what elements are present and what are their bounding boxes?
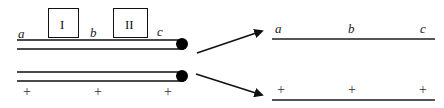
- left-plus-mark-2: +: [94, 85, 102, 99]
- bottom-rod-upper-line: [17, 71, 184, 73]
- left-plus-mark-3: +: [164, 85, 172, 99]
- bottom-rod-lower-line: [17, 80, 184, 82]
- top-rod-lower-line: [17, 48, 184, 50]
- right-bottom-plus-2: +: [348, 83, 356, 97]
- figure-canvas: I II a b c + + + a b c + + +: [0, 0, 444, 108]
- arrow-to-top-result: [197, 31, 262, 53]
- arrow-to-bottom-result: [196, 74, 262, 95]
- region-box-ii-label: II: [125, 18, 134, 31]
- region-box-i-label: I: [60, 18, 64, 31]
- right-top-label-a: a: [275, 22, 282, 35]
- region-box-ii: II: [113, 8, 148, 38]
- top-rod-end-dot: [176, 38, 188, 50]
- right-top-label-b: b: [348, 22, 355, 35]
- right-bottom-plus-1: +: [277, 83, 285, 97]
- top-rod-upper-line: [17, 39, 184, 41]
- left-label-c: c: [157, 25, 163, 38]
- right-top-label-c: c: [420, 22, 426, 35]
- bottom-rod-end-dot: [176, 70, 188, 82]
- left-label-b: b: [90, 26, 97, 39]
- right-top-result-line: [272, 38, 435, 40]
- left-plus-mark-1: +: [23, 85, 31, 99]
- right-bottom-result-line: [272, 99, 435, 101]
- right-bottom-plus-3: +: [419, 83, 427, 97]
- region-box-i: I: [48, 8, 79, 38]
